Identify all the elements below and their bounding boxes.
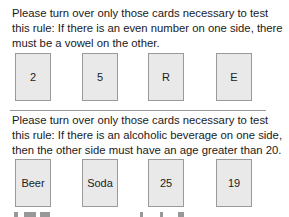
card-2[interactable]: 2 bbox=[15, 53, 51, 101]
divider bbox=[10, 110, 266, 111]
card-label: R bbox=[162, 71, 170, 83]
card-label: 25 bbox=[160, 177, 172, 189]
card-label: 5 bbox=[97, 71, 103, 83]
card-label: Beer bbox=[21, 177, 44, 189]
card-soda[interactable]: Soda bbox=[82, 159, 118, 207]
card-19[interactable]: 19 bbox=[216, 159, 252, 207]
text-fragment bbox=[160, 212, 163, 217]
problem-2-instruction: Please turn over only those cards necess… bbox=[12, 113, 287, 158]
card-label: 2 bbox=[30, 71, 36, 83]
text-fragment bbox=[40, 212, 50, 217]
text-fragment bbox=[178, 212, 184, 217]
card-5[interactable]: 5 bbox=[82, 53, 118, 101]
card-r[interactable]: R bbox=[148, 53, 184, 101]
card-label: 19 bbox=[228, 177, 240, 189]
text-fragment bbox=[24, 212, 36, 217]
card-25[interactable]: 25 bbox=[148, 159, 184, 207]
text-fragment bbox=[14, 212, 18, 217]
problem-1-instruction: Please turn over only those cards necess… bbox=[12, 6, 287, 51]
card-beer[interactable]: Beer bbox=[15, 159, 51, 207]
card-e[interactable]: E bbox=[216, 53, 252, 101]
text-fragment bbox=[140, 212, 143, 217]
card-label: Soda bbox=[87, 177, 113, 189]
card-label: E bbox=[230, 71, 237, 83]
